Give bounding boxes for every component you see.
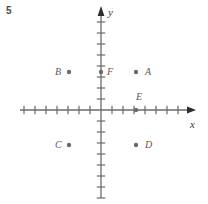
x-axis-label: x bbox=[190, 119, 195, 130]
y-axis-arrowhead bbox=[98, 6, 105, 16]
plotted-points-group bbox=[67, 70, 138, 147]
point-label-f: F bbox=[107, 67, 113, 77]
point-label-d: D bbox=[145, 140, 152, 150]
data-point-c bbox=[67, 143, 71, 147]
data-point-e bbox=[134, 108, 138, 112]
point-label-e: E bbox=[136, 92, 142, 102]
coordinate-plane-figure: 5 x y ABCDEF bbox=[0, 0, 208, 204]
point-label-b: B bbox=[55, 67, 61, 77]
coordinate-axes-graphic bbox=[0, 0, 208, 204]
data-point-d bbox=[134, 143, 138, 147]
y-axis-label: y bbox=[108, 7, 113, 18]
axes-group bbox=[20, 6, 196, 198]
data-point-f bbox=[99, 70, 103, 74]
point-label-c: C bbox=[55, 140, 62, 150]
x-axis-arrowhead bbox=[187, 107, 196, 114]
data-point-a bbox=[134, 70, 138, 74]
data-point-b bbox=[67, 70, 71, 74]
point-label-a: A bbox=[145, 67, 151, 77]
